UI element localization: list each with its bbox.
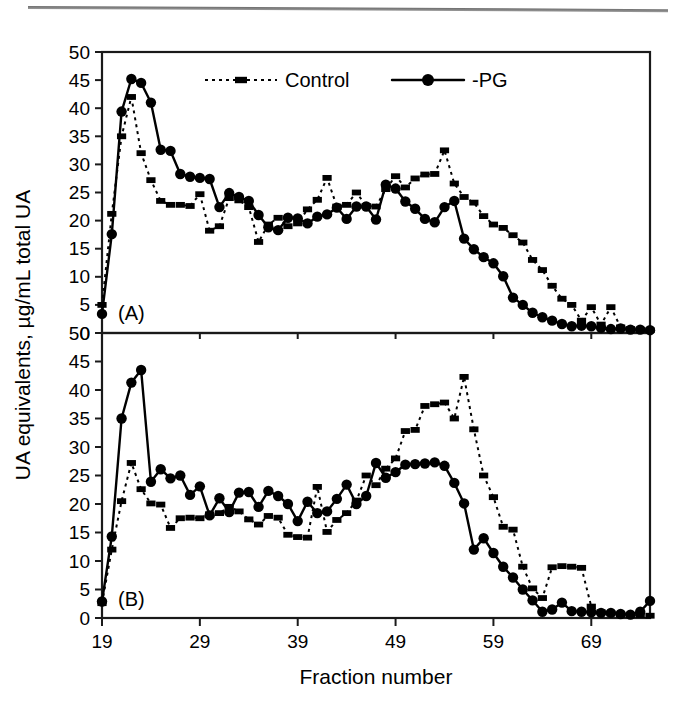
data-point-pg: [224, 188, 234, 198]
legend-marker-square: [235, 77, 247, 83]
data-point-control: [215, 510, 224, 516]
data-point-control: [440, 400, 449, 406]
data-point-control: [479, 213, 488, 219]
data-point-control: [557, 296, 566, 302]
data-point-control: [283, 532, 292, 538]
data-point-control: [420, 403, 429, 409]
data-point-control: [528, 585, 537, 591]
data-point-pg: [527, 308, 537, 318]
data-point-pg: [537, 607, 547, 617]
data-point-control: [254, 239, 263, 245]
chart-legend: Control-PG: [205, 69, 508, 91]
data-point-pg: [459, 233, 469, 243]
data-point-pg: [322, 506, 332, 516]
data-point-control: [430, 171, 439, 177]
y-tick-label-panel-b: 45: [69, 351, 90, 372]
x-tick-label: 69: [581, 631, 602, 652]
data-point-pg: [214, 493, 224, 503]
data-point-control: [499, 225, 508, 231]
x-tick-label: 29: [189, 631, 210, 652]
chart-svg: 5045403530252015105050454035302520151050…: [0, 0, 673, 701]
data-point-pg: [234, 487, 244, 497]
data-point-pg: [381, 473, 391, 483]
data-point-pg: [420, 214, 430, 224]
data-point-pg: [400, 459, 410, 469]
data-point-control: [489, 494, 498, 500]
data-point-pg: [283, 499, 293, 509]
series-line-control-panel-b: [102, 377, 650, 616]
data-point-control: [264, 513, 273, 519]
data-point-pg: [126, 377, 136, 387]
data-point-control: [567, 302, 576, 308]
data-point-pg: [576, 607, 586, 617]
data-point-control: [303, 535, 312, 541]
data-point-control: [391, 173, 400, 179]
y-tick-label-panel-b: 50: [69, 323, 90, 344]
data-point-control: [176, 202, 185, 208]
data-point-pg: [449, 196, 459, 206]
y-tick-label-panel-a: 40: [69, 98, 90, 119]
data-point-pg: [341, 479, 351, 489]
data-point-pg: [244, 487, 254, 497]
data-point-pg: [175, 169, 185, 179]
data-point-control: [195, 515, 204, 521]
data-point-pg: [195, 481, 205, 491]
data-point-control: [420, 172, 429, 178]
data-point-control: [176, 515, 185, 521]
data-point-pg: [185, 490, 195, 500]
data-point-control: [342, 510, 351, 516]
data-point-pg: [557, 597, 567, 607]
data-point-control: [518, 240, 527, 246]
data-point-control: [342, 202, 351, 208]
data-point-control: [127, 460, 136, 466]
data-point-control: [303, 206, 312, 212]
data-point-pg: [195, 173, 205, 183]
data-point-control: [548, 283, 557, 289]
data-point-pg: [263, 222, 273, 232]
data-point-control: [185, 203, 194, 209]
data-point-pg: [635, 324, 645, 334]
data-point-control: [577, 565, 586, 571]
data-point-control: [508, 232, 517, 238]
data-point-pg: [567, 321, 577, 331]
data-point-pg: [596, 323, 606, 333]
data-point-pg: [341, 214, 351, 224]
data-point-pg: [547, 315, 557, 325]
data-point-control: [401, 428, 410, 434]
data-point-pg: [615, 609, 625, 619]
data-point-control: [548, 564, 557, 570]
legend-label: -PG: [472, 69, 508, 91]
data-point-control: [538, 595, 547, 601]
data-point-pg: [567, 606, 577, 616]
y-tick-label-panel-b: 40: [69, 380, 90, 401]
data-point-pg: [508, 572, 518, 582]
data-point-pg: [185, 172, 195, 182]
data-point-pg: [390, 183, 400, 193]
data-point-pg: [635, 607, 645, 617]
data-point-pg: [518, 584, 528, 594]
data-point-pg: [498, 271, 508, 281]
data-point-control: [499, 524, 508, 530]
data-point-pg: [146, 477, 156, 487]
y-tick-label-panel-a: 45: [69, 70, 90, 91]
data-point-pg: [116, 106, 126, 116]
data-point-pg: [204, 510, 214, 520]
panel-a-frame: [102, 52, 650, 333]
y-tick-label-panel-b: 20: [69, 494, 90, 515]
x-tick-label: 39: [287, 631, 308, 652]
data-point-pg: [430, 457, 440, 467]
data-point-pg: [293, 516, 303, 526]
legend-marker-circle: [422, 74, 434, 86]
data-point-control: [538, 267, 547, 273]
y-tick-label-panel-a: 10: [69, 266, 90, 287]
data-point-pg: [625, 609, 635, 619]
data-point-pg: [97, 309, 107, 319]
data-point-pg: [557, 319, 567, 329]
data-point-control: [606, 304, 615, 310]
data-point-control: [450, 181, 459, 187]
data-point-pg: [361, 491, 371, 501]
data-point-control: [528, 257, 537, 263]
x-tick-label: 49: [385, 631, 406, 652]
y-axis-title: UA equivalents, µg/mL total UA: [11, 190, 34, 480]
data-point-pg: [361, 201, 371, 211]
